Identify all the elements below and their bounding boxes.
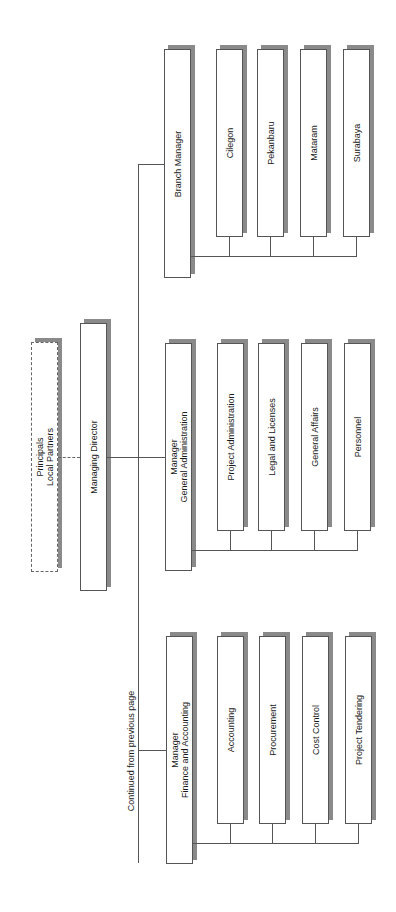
fa-manager-line2: Finance and Accounting xyxy=(180,702,190,798)
ga-child-stub xyxy=(314,530,315,550)
fa-child-label: Accounting xyxy=(226,708,236,753)
fa-child-label: Cost Control xyxy=(311,705,321,755)
fa-child-stub xyxy=(315,823,316,843)
ga-child-label: Legal and Licenses xyxy=(267,398,277,476)
branch-child-box: Mataram xyxy=(300,49,327,237)
managing-director-box: Managing Director xyxy=(80,323,107,591)
branch-child-label: Cilegon xyxy=(225,128,235,159)
ga-manager-box: Manager General Administration xyxy=(165,343,192,571)
ga-manager-line2: General Administration xyxy=(179,411,189,502)
fa-child-stub xyxy=(230,823,231,843)
main-spine xyxy=(138,164,139,863)
org-chart: Continued from previous page Principals … xyxy=(0,0,396,912)
fa-child-label: Procurement xyxy=(268,704,278,756)
fa-child-box: Cost Control xyxy=(302,636,329,824)
branch-child-stub xyxy=(270,236,271,256)
principals-label: Principals Local Partners xyxy=(35,428,55,486)
branch-child-box: Pekanbaru xyxy=(257,49,284,237)
branch-manager-box: Branch Manager xyxy=(164,49,191,278)
branch-child-stub xyxy=(229,236,230,256)
ga-child-stub xyxy=(230,530,231,550)
ga-children-bus xyxy=(192,550,358,551)
continued-note: Continued from previous page xyxy=(126,691,136,812)
principals-box: Principals Local Partners xyxy=(31,342,58,572)
ga-child-box: Legal and Licenses xyxy=(258,343,285,531)
md-connector xyxy=(107,457,165,458)
fa-child-box: Project Tendering xyxy=(345,636,372,824)
fa-manager-label: Manager Finance and Accounting xyxy=(170,702,190,798)
fa-manager-line1: Manager xyxy=(170,702,180,798)
branch-child-label: Surabaya xyxy=(352,124,362,163)
branch-child-stub xyxy=(313,236,314,256)
ga-child-stub xyxy=(357,530,358,550)
fa-child-box: Procurement xyxy=(259,636,286,824)
branch-child-box: Surabaya xyxy=(343,49,370,237)
branch-child-box: Cilegon xyxy=(216,49,243,237)
principals-dashed-connector xyxy=(58,457,80,458)
fa-child-label: Project Tendering xyxy=(354,695,364,765)
branch-manager-label: Branch Manager xyxy=(173,130,183,197)
branch-children-bus xyxy=(191,256,357,257)
ga-child-box: General Affairs xyxy=(301,343,328,531)
ga-child-label: Project Administration xyxy=(226,393,236,480)
ga-child-label: Personnel xyxy=(353,417,363,458)
fa-connector xyxy=(138,750,166,751)
branch-child-stub xyxy=(356,236,357,256)
branch-child-label: Pekanbaru xyxy=(266,121,276,165)
branch-connector xyxy=(138,164,164,165)
principals-line2: Local Partners xyxy=(45,428,55,486)
ga-child-label: General Affairs xyxy=(310,407,320,466)
managing-director-label: Managing Director xyxy=(89,420,99,494)
branch-child-label: Mataram xyxy=(309,125,319,161)
ga-manager-label: Manager General Administration xyxy=(169,411,189,502)
fa-child-box: Accounting xyxy=(217,636,244,824)
principals-line1: Principals xyxy=(35,428,45,486)
fa-manager-box: Manager Finance and Accounting xyxy=(166,636,193,864)
ga-child-box: Personnel xyxy=(344,343,371,531)
fa-child-stub xyxy=(358,823,359,843)
ga-manager-line1: Manager xyxy=(169,411,179,502)
fa-children-bus xyxy=(193,843,359,844)
ga-child-stub xyxy=(271,530,272,550)
fa-child-stub xyxy=(272,823,273,843)
ga-child-box: Project Administration xyxy=(217,343,244,531)
